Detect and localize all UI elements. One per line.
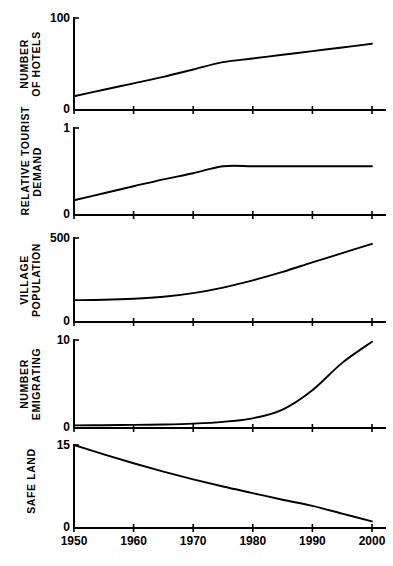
x-tick-label-0: 1950 bbox=[49, 534, 99, 548]
y-axis-title-0: NUMBEROF HOTELS bbox=[18, 18, 42, 110]
y-axis-title-1: RELATIVE TOURISTDEMAND bbox=[18, 128, 42, 215]
y-axis-title-4: SAFE LAND bbox=[24, 439, 36, 522]
chart-panel-3: 010NUMBEREMIGRATING bbox=[0, 0, 393, 566]
x-tick-label-1: 1960 bbox=[109, 534, 159, 548]
y-axis-title-line-3-1: EMIGRATING bbox=[30, 340, 42, 428]
y-tick-label-max-3: 10 bbox=[28, 333, 70, 347]
panel-plot-2 bbox=[0, 0, 393, 566]
multi-panel-time-series-figure: 0100NUMBEROF HOTELS01RELATIVE TOURISTDEM… bbox=[0, 0, 393, 566]
y-axis-title-line-0-1: OF HOTELS bbox=[30, 18, 42, 110]
chart-panel-0: 0100NUMBEROF HOTELS bbox=[0, 0, 393, 566]
data-curve-4 bbox=[74, 445, 372, 521]
chart-panel-2: 0500VILLAGEPOPULATION bbox=[0, 0, 393, 566]
y-tick-label-max-1: 1 bbox=[28, 121, 70, 135]
y-axis-title-line-1-0: RELATIVE TOURIST bbox=[18, 128, 30, 215]
y-axis-title-line-1-1: DEMAND bbox=[30, 128, 42, 215]
y-axis-title-line-2-0: VILLAGE bbox=[18, 238, 30, 322]
y-tick-label-min-2: 0 bbox=[28, 314, 70, 328]
x-tick-label-4: 1990 bbox=[287, 534, 337, 548]
y-tick-label-min-3: 0 bbox=[28, 420, 70, 434]
x-tick-label-3: 1980 bbox=[228, 534, 278, 548]
y-tick-label-max-4: 15 bbox=[28, 438, 70, 452]
y-tick-label-min-0: 0 bbox=[28, 102, 70, 116]
y-axis-title-line-4-0: SAFE LAND bbox=[24, 439, 36, 522]
y-tick-label-min-1: 0 bbox=[28, 207, 70, 221]
y-axis-title-line-2-1: POPULATION bbox=[30, 238, 42, 322]
y-tick-label-min-4: 0 bbox=[28, 520, 70, 534]
panel-plot-4 bbox=[0, 0, 393, 566]
y-tick-label-max-2: 500 bbox=[28, 231, 70, 245]
data-curve-2 bbox=[74, 244, 372, 300]
data-curve-1 bbox=[74, 166, 372, 200]
panel-plot-0 bbox=[0, 0, 393, 566]
y-axis-title-line-0-0: NUMBER bbox=[18, 18, 30, 110]
y-axis-title-2: VILLAGEPOPULATION bbox=[18, 238, 42, 322]
chart-panel-4: 015SAFE LAND bbox=[0, 0, 393, 566]
chart-panel-1: 01RELATIVE TOURISTDEMAND bbox=[0, 0, 393, 566]
x-tick-label-2: 1970 bbox=[168, 534, 218, 548]
y-tick-label-max-0: 100 bbox=[28, 11, 70, 25]
panel-plot-3 bbox=[0, 0, 393, 566]
y-axis-title-line-3-0: NUMBER bbox=[18, 340, 30, 428]
panel-plot-1 bbox=[0, 0, 393, 566]
x-tick-label-5: 2000 bbox=[347, 534, 393, 548]
y-axis-title-3: NUMBEREMIGRATING bbox=[18, 340, 42, 428]
data-curve-3 bbox=[74, 342, 372, 426]
data-curve-0 bbox=[74, 44, 372, 96]
